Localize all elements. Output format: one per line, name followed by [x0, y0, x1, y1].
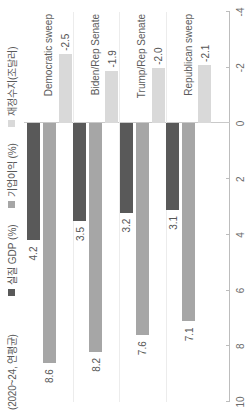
axis-tick-mark	[226, 234, 230, 235]
bar-corporate-profit	[182, 123, 195, 321]
bar-value-label: -1.9	[106, 50, 117, 67]
value-axis-line	[229, 12, 230, 402]
axis-tick-label: 2	[235, 176, 246, 182]
bar-value-label: -2.5	[60, 34, 71, 51]
bar-corporate-profit	[43, 123, 56, 363]
axis-tick-mark	[226, 67, 230, 68]
bar-value-label: -2.0	[153, 47, 164, 64]
legend-item-fiscal-balance: 재정수지(조달러)	[4, 46, 19, 127]
bar-corporate-profit	[89, 123, 102, 351]
bar-corporate-profit	[136, 123, 149, 335]
bar-fiscal-balance	[59, 54, 72, 124]
bar-value-label: 3.2	[121, 219, 132, 233]
bar-value-label: 3.5	[74, 227, 85, 241]
axis-tick-mark	[226, 401, 230, 402]
legend-label-corporate-profit: 기업이익 (%)	[4, 143, 19, 197]
axis-tick-label: -2	[235, 63, 246, 72]
axis-tick-mark	[226, 345, 230, 346]
bar-fiscal-balance	[152, 68, 165, 124]
axis-tick-mark	[226, 178, 230, 179]
bar-value-label: 4.2	[28, 247, 39, 261]
axis-tick-label: 0	[235, 121, 246, 127]
bar-real-gdp	[166, 123, 179, 209]
category-label: Biden/Rep Senate	[90, 14, 101, 95]
axis-tick-mark	[226, 290, 230, 291]
category-label: Trump/Rep Senate	[136, 14, 147, 98]
category-label: Democratic sweep	[43, 14, 54, 96]
bar-value-label: 3.1	[167, 216, 178, 230]
legend-swatch-real-gdp	[8, 289, 15, 296]
bar-value-label: 7.6	[137, 341, 148, 355]
axis-tick-label: 4	[235, 232, 246, 238]
bar-value-label: 7.1	[183, 327, 194, 341]
bar-value-label: 8.2	[90, 358, 101, 372]
legend-swatch-fiscal-balance	[8, 120, 15, 127]
chart-title: (2020~24, 연평균)	[4, 334, 19, 410]
legend-swatch-corporate-profit	[8, 201, 15, 208]
axis-tick-label: 6	[235, 288, 246, 294]
legend-label-fiscal-balance: 재정수지(조달러)	[4, 46, 19, 116]
bar-value-label: 8.6	[44, 369, 55, 383]
bar-value-label: -2.1	[199, 45, 210, 62]
legend-item-corporate-profit: 기업이익 (%)	[4, 143, 19, 208]
axis-tick-label: -4	[235, 8, 246, 17]
axis-tick-label: 8	[235, 344, 246, 350]
bar-real-gdp	[73, 123, 86, 221]
category-label: Republican sweep	[183, 14, 194, 96]
legend-item-real-gdp: 실질 GDP (%)	[4, 224, 19, 296]
bar-real-gdp	[120, 123, 133, 212]
bar-fiscal-balance	[105, 71, 118, 124]
axis-tick-mark	[226, 11, 230, 12]
bar-fiscal-balance	[198, 65, 211, 124]
bar-chart: (2020~24, 연평균) 실질 GDP (%) 기업이익 (%) 재정수지(…	[0, 0, 250, 414]
axis-tick-label: 10	[235, 396, 246, 407]
chart-legend: 실질 GDP (%) 기업이익 (%) 재정수지(조달러)	[4, 46, 19, 296]
chart-canvas: (2020~24, 연평균) 실질 GDP (%) 기업이익 (%) 재정수지(…	[0, 0, 250, 414]
legend-label-real-gdp: 실질 GDP (%)	[4, 224, 19, 285]
bar-real-gdp	[27, 123, 40, 240]
